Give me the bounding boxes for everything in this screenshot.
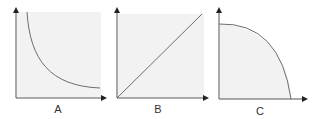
diagram-canvas — [0, 0, 318, 119]
panel-c — [219, 10, 305, 99]
panel-label-c: C — [250, 105, 270, 117]
plot-area — [17, 12, 101, 97]
panel-label-b: B — [148, 103, 168, 115]
panel-label-a: A — [48, 103, 68, 115]
panel-a — [16, 10, 104, 98]
panel-b — [117, 10, 206, 98]
